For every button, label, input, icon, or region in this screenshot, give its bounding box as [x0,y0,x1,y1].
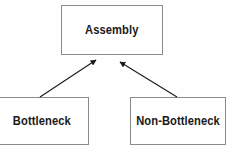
arrow-nonbottleneck-to-assembly [120,62,177,97]
node-bottleneck-shadow-bottom [0,145,94,150]
node-nonbottleneck-shadow-bottom [136,145,231,150]
node-bottleneck-shadow-right [89,103,94,150]
arrow-bottleneck-to-assembly [40,60,96,97]
node-nonbottleneck[interactable]: Non-Bottleneck [130,97,226,145]
node-bottleneck-label: Bottleneck [4,114,71,128]
node-nonbottleneck-shadow-right [226,103,231,150]
node-nonbottleneck-label: Non-Bottleneck [136,114,220,128]
node-assembly-shadow-right [163,11,168,60]
node-bottleneck[interactable]: Bottleneck [0,97,89,145]
diagram-canvas: Assembly Bottleneck Non-Bottleneck [0,0,234,158]
node-assembly-shadow-bottom [67,55,168,60]
node-assembly-label: Assembly [85,23,138,37]
node-assembly[interactable]: Assembly [61,5,163,55]
